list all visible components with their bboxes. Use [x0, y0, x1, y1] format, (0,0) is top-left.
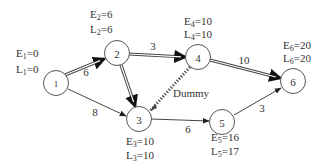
svg-text:E4=10: E4=10 — [184, 15, 212, 29]
annotation-node-2: E2=6 L2=6 — [90, 8, 113, 37]
edge-2-3 — [121, 65, 135, 106]
svg-text:1: 1 — [54, 79, 59, 89]
svg-text:E6=20: E6=20 — [283, 39, 311, 53]
edge-weight-5-6: 3 — [259, 102, 265, 114]
svg-text:L2=6: L2=6 — [90, 23, 113, 37]
annotation-node-5: E5=16 L5=17 — [211, 131, 239, 159]
annotation-node-4: E4=10 L4=10 — [184, 15, 212, 42]
svg-text:L5=17: L5=17 — [211, 145, 239, 159]
svg-text:3: 3 — [136, 114, 142, 126]
svg-text:E2=6: E2=6 — [90, 8, 113, 22]
annotation-node-3: E3=10 L3=10 — [126, 135, 154, 163]
edge-3-5 — [151, 119, 209, 121]
annotation-node-6: E6=20 L6=20 — [283, 39, 311, 66]
node-6: 6 — [281, 69, 306, 94]
svg-text:2: 2 — [114, 48, 120, 60]
svg-text:L3=10: L3=10 — [126, 149, 154, 163]
node-4: 4 — [186, 45, 211, 70]
edge-weight-4-6: 10 — [239, 54, 251, 66]
svg-text:L4=10: L4=10 — [184, 28, 212, 42]
edge-weight-3-5: 6 — [185, 123, 191, 135]
network-diagram: 6 8 3 Dummy 6 10 3 1 2 3 4 — [0, 0, 330, 168]
edge-weight-2-4: 3 — [150, 40, 156, 52]
svg-text:4: 4 — [195, 52, 201, 64]
svg-text:E5=16: E5=16 — [211, 131, 239, 145]
annotation-node-1: E1=0 L1=0 — [16, 47, 39, 77]
edge-weight-1-3: 8 — [92, 106, 98, 118]
edge-weight-1-2: 6 — [83, 66, 89, 78]
svg-text:L6=20: L6=20 — [283, 52, 311, 66]
node-2: 2 — [105, 41, 130, 66]
svg-text:E3=10: E3=10 — [126, 135, 154, 149]
svg-text:6: 6 — [290, 76, 296, 88]
svg-text:L1=0: L1=0 — [16, 63, 39, 77]
node-1: 1 — [44, 71, 69, 96]
node-3: 3 — [127, 107, 152, 132]
svg-text:E1=0: E1=0 — [16, 47, 39, 61]
edge-5-6 — [234, 88, 281, 115]
edge-2-4 — [129, 54, 185, 57]
svg-text:5: 5 — [219, 117, 225, 129]
dummy-label: Dummy — [173, 87, 210, 99]
